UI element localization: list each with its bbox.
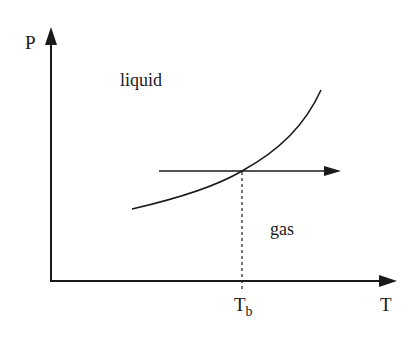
x-axis-label: T (380, 294, 392, 315)
process-arrow-head-icon (324, 166, 341, 176)
region-label-gas: gas (270, 219, 294, 239)
region-label-liquid: liquid (120, 70, 162, 90)
coexistence-curve (132, 90, 321, 209)
y-axis-label: P (25, 32, 36, 53)
y-axis-arrow-icon (45, 27, 57, 45)
boiling-temperature-label: Tb (234, 294, 253, 319)
phase-diagram: P T liquid gas Tb (0, 0, 419, 344)
x-axis-arrow-icon (379, 275, 397, 287)
